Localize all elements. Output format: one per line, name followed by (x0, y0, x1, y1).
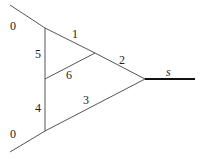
label-edge-1: 1 (72, 28, 78, 40)
edge-1 (45, 28, 95, 53)
edge-3 (45, 79, 145, 131)
label-bottom-zero: 0 (10, 128, 16, 140)
label-top-zero: 0 (10, 20, 16, 32)
label-edge-5: 5 (35, 48, 41, 60)
label-edge-2: 2 (119, 54, 125, 66)
graph-edges (0, 0, 205, 159)
label-edge-6: 6 (66, 69, 72, 81)
label-s: s (166, 66, 171, 78)
label-edge-3: 3 (83, 94, 89, 106)
feynman-graph-diagram: 0 1 5 2 6 s 3 4 0 (0, 0, 205, 159)
label-edge-4: 4 (35, 102, 41, 114)
